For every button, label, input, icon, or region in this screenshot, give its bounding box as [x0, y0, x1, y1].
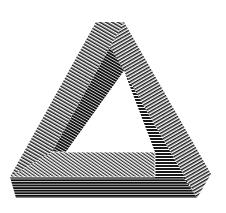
penrose-triangle-illustration: [0, 0, 226, 213]
bottom-beam-front-face: [10, 177, 197, 198]
